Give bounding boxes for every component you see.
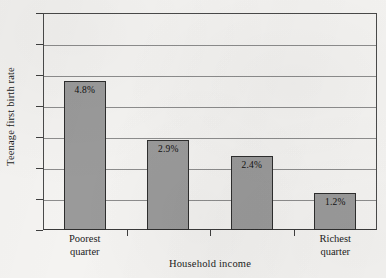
bar-chart-figure: Teenage first birth rate 01234567 4.8%2.… — [0, 0, 386, 278]
x-category-label-line: quarter — [275, 246, 386, 259]
x-category-label-line: Richest — [275, 233, 386, 246]
x-axis-title: Household income — [43, 258, 377, 269]
x-category-label: Poorestquarter — [25, 233, 145, 258]
x-category-label: Richestquarter — [275, 233, 386, 258]
y-axis-title-text: Teenage first birth rate — [5, 67, 16, 166]
y-axis-title: Teenage first birth rate — [2, 0, 18, 232]
x-category-label-line: quarter — [25, 246, 145, 259]
x-axis: PoorestquarterRichestquarter — [0, 0, 386, 278]
x-category-label-line: Poorest — [25, 233, 145, 246]
x-tick-mark — [210, 230, 211, 236]
